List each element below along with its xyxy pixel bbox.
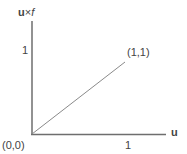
endpoint-label: (1,1): [127, 47, 150, 58]
y-tick-1: 1: [22, 45, 28, 56]
y-axis-label-f: f: [31, 6, 34, 18]
y-axis-label: u×f: [18, 7, 34, 18]
y-axis-label-u: u: [18, 6, 25, 18]
x-axis-label: u: [171, 127, 178, 138]
origin-label: (0,0): [2, 140, 25, 151]
diagram-canvas: [0, 0, 187, 154]
identity-line: [32, 62, 125, 134]
x-tick-1: 1: [125, 140, 131, 151]
